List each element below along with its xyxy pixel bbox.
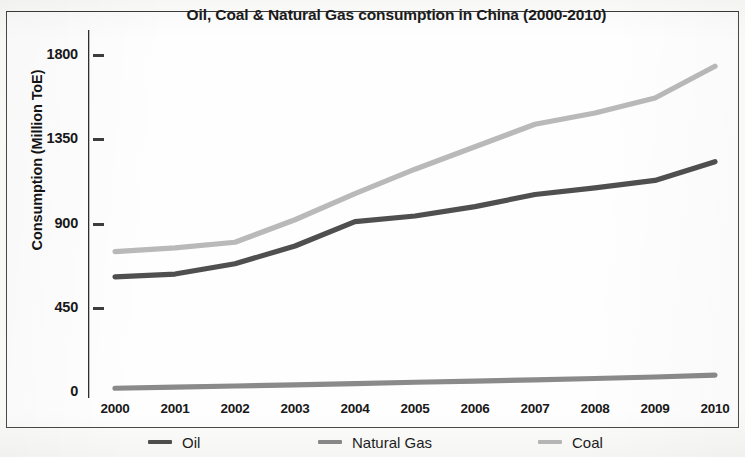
x-tick-label: 2004: [325, 401, 385, 416]
x-tick-label: 2001: [145, 401, 205, 416]
y-tick-mark: [93, 54, 104, 57]
series-line-oil: [115, 162, 715, 277]
x-tick-label: 2009: [625, 401, 685, 416]
series-line-natural-gas: [115, 375, 715, 388]
x-tick-label: 2006: [445, 401, 505, 416]
legend-swatch-natural-gas: [318, 440, 342, 444]
series-line-coal: [115, 66, 715, 251]
y-tick-label: 450: [16, 299, 78, 315]
legend-swatch-coal: [538, 440, 562, 444]
y-axis-title: Consumption (Million ToE): [29, 35, 45, 285]
y-tick-mark: [93, 138, 104, 141]
x-tick-label: 2007: [505, 401, 565, 416]
legend-label: Coal: [572, 434, 603, 451]
chart-title: Oil, Coal & Natural Gas consumption in C…: [0, 6, 745, 24]
x-tick-label: 2005: [385, 401, 445, 416]
legend-item-natural-gas[interactable]: Natural Gas: [318, 430, 432, 454]
x-tick-label: 2010: [685, 401, 745, 416]
legend-item-oil[interactable]: Oil: [148, 430, 200, 454]
x-tick-label: 2008: [565, 401, 625, 416]
chart-screenshot: Oil, Coal & Natural Gas consumption in C…: [0, 0, 745, 457]
x-tick-label: 2002: [205, 401, 265, 416]
y-tick-mark: [93, 307, 104, 310]
legend-label: Oil: [182, 434, 200, 451]
x-tick-label: 2000: [85, 401, 145, 416]
y-tick-label: 0: [16, 383, 78, 399]
y-tick-mark: [93, 223, 104, 226]
legend-label: Natural Gas: [352, 434, 432, 451]
x-tick-label: 2003: [265, 401, 325, 416]
y-tick-label: 900: [16, 215, 78, 231]
chart-legend: OilNatural GasCoal: [0, 430, 745, 457]
legend-item-coal[interactable]: Coal: [538, 430, 603, 454]
plot-lines-svg: [88, 30, 733, 402]
y-tick-label: 1350: [16, 130, 78, 146]
legend-swatch-oil: [148, 440, 172, 444]
plot-area: [88, 30, 733, 402]
y-tick-label: 1800: [16, 46, 78, 62]
